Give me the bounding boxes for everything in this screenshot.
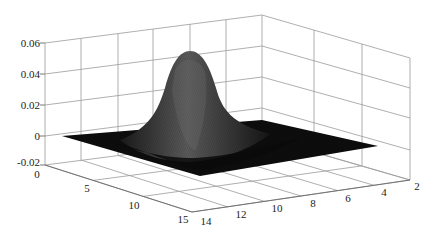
surface-plot: 0.06 0.04 0.02 0 -0.02 0 5 10 15 14 12 1…	[0, 0, 435, 237]
z-tick-label: 0.02	[21, 99, 40, 111]
y-tick-label: 12	[236, 208, 247, 220]
y-tick-label: 2	[414, 180, 420, 192]
x-tick-label: 0	[34, 168, 40, 180]
x-axis: 0 5 10 15	[34, 168, 189, 225]
x-tick-label: 15	[178, 213, 190, 225]
y-tick-label: 14	[201, 215, 213, 227]
z-tick-label: 0.06	[21, 37, 41, 49]
z-tick-label: 0.04	[21, 68, 41, 80]
x-tick-label: 10	[129, 199, 141, 211]
z-tick-label: 0	[35, 130, 41, 142]
x-tick-label: 5	[84, 182, 90, 194]
y-axis: 14 12 10 8 6 4 2	[201, 180, 420, 227]
z-axis: 0.06 0.04 0.02 0 -0.02	[17, 37, 45, 168]
axis-box-front	[45, 165, 410, 212]
y-tick-label: 8	[310, 197, 316, 209]
y-tick-label: 10	[272, 202, 284, 214]
z-tick-label: -0.02	[17, 156, 40, 168]
y-tick-label: 4	[381, 186, 387, 198]
y-tick-label: 6	[345, 192, 351, 204]
